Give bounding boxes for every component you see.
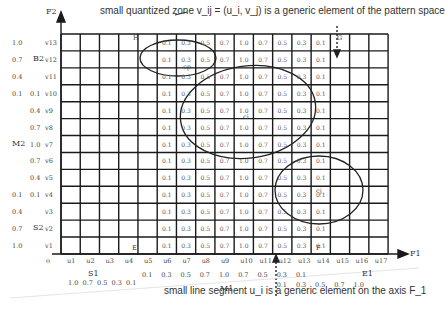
b2-membership-value: 1.0	[12, 40, 22, 47]
cell-value: 0.5	[197, 125, 214, 131]
cell-value: 0.5	[274, 125, 291, 131]
cell-value: 0.5	[197, 40, 214, 46]
cell-value: 0.7	[216, 142, 233, 148]
cell-value: 0.5	[274, 226, 291, 232]
cluster-ci-label: ci	[243, 114, 249, 121]
s2-membership-value: 0.4	[12, 209, 22, 216]
cell-value: 0.5	[274, 108, 291, 114]
cell-value: 0.3	[293, 40, 310, 46]
cell-value: 0.7	[254, 108, 271, 114]
cell-value: 0.1	[158, 74, 175, 80]
y-tick-v13: v13	[45, 40, 57, 47]
cell-value: 0.7	[216, 226, 233, 232]
cell-value: 0.5	[197, 175, 214, 181]
y-tick-v5: v5	[45, 175, 53, 182]
cell-value: 0.7	[254, 175, 271, 181]
cell-value: 0.5	[274, 243, 291, 249]
cell-value: 0.7	[254, 226, 271, 232]
cell-value: 0.5	[197, 226, 214, 232]
cell-value: 0.7	[254, 125, 271, 131]
cell-value: 1.0	[235, 158, 252, 164]
y-tick-v11: v11	[45, 74, 57, 81]
cell-value: 0.1	[158, 226, 175, 232]
cell-value: 0.1	[312, 74, 329, 80]
cell-value: 1.0	[235, 175, 252, 181]
m2-membership-value: 0.7	[30, 158, 40, 165]
m1-membership-value: 0.5	[180, 272, 190, 279]
cell-value: 0.5	[274, 192, 291, 198]
y-axis-arrow-icon	[57, 12, 65, 22]
cell-value: 0.1	[158, 91, 175, 97]
m1-membership-value: 0.1	[296, 272, 306, 279]
x-tick-u14: u14	[317, 258, 329, 265]
m1-membership-value: 0.3	[161, 272, 171, 279]
x-tick-u4: u4	[125, 258, 133, 265]
cell-value: 1.0	[235, 209, 252, 215]
cell-value: 0.5	[197, 57, 214, 63]
s1-membership-value: 0.3	[112, 280, 122, 287]
cell-value: 1.0	[235, 192, 252, 198]
s2-membership-value: 0.7	[12, 226, 22, 233]
cell-value: 0.1	[158, 158, 175, 164]
cell-value: 0.1	[312, 243, 329, 249]
m1-membership-value: 0.7	[200, 272, 210, 279]
s2-membership-value: 0.1	[12, 192, 22, 199]
corner-e: E	[132, 245, 137, 252]
cell-value: 0.1	[312, 91, 329, 97]
cell-value: 0.1	[312, 226, 329, 232]
cell-value: 0.5	[274, 209, 291, 215]
cell-value: 1.0	[235, 57, 252, 63]
cell-value: 1.0	[235, 142, 252, 148]
b2-membership-value: 0.4	[12, 74, 22, 81]
origin-label: o	[46, 258, 50, 265]
cell-value: 0.1	[312, 57, 329, 63]
cell-value: 0.5	[197, 158, 214, 164]
y-tick-v1: v1	[45, 243, 53, 250]
x-tick-u17: u17	[375, 258, 387, 265]
cell-value: 0.5	[274, 40, 291, 46]
cell-value: 0.3	[177, 91, 194, 97]
cell-value: 1.0	[235, 40, 252, 46]
cell-value: 0.3	[293, 158, 310, 164]
y-tick-v6: v6	[45, 158, 53, 165]
s2-label: S2	[33, 224, 44, 232]
cell-value: 0.7	[216, 91, 233, 97]
cell-value: 0.3	[177, 226, 194, 232]
cell-value: 0.5	[197, 108, 214, 114]
cell-value: 1.0	[235, 74, 252, 80]
cell-value: 0.3	[293, 209, 310, 215]
cell-value: 0.7	[254, 243, 271, 249]
cell-value: 0.7	[216, 125, 233, 131]
cell-value: 0.1	[312, 142, 329, 148]
cell-value: 0.7	[216, 74, 233, 80]
cell-value: 0.7	[216, 209, 233, 215]
cell-value: 0.5	[197, 91, 214, 97]
cell-value: 0.1	[312, 125, 329, 131]
cell-value: 0.7	[216, 108, 233, 114]
s1-label: S1	[88, 270, 99, 278]
y-axis-label: F2	[46, 8, 57, 16]
cell-value: 0.1	[158, 243, 175, 249]
m2-membership-value: 0.4	[30, 108, 40, 115]
m2-membership-value: 0.1	[30, 91, 40, 98]
cell-value: 0.7	[216, 57, 233, 63]
x-tick-u5: u5	[144, 258, 152, 265]
b2-label: B2	[33, 55, 44, 63]
cell-value: 0.7	[254, 91, 271, 97]
x-axis-arrow-icon	[398, 250, 408, 258]
e1-membership-value: 0.3	[296, 282, 306, 289]
y-tick-v8: v8	[45, 125, 53, 132]
cell-value: 0.5	[274, 91, 291, 97]
m1-membership-value: 1.0	[219, 272, 229, 279]
cell-value: 0.1	[158, 142, 175, 148]
e1-label: E1	[362, 270, 373, 278]
y-tick-v3: v3	[45, 209, 53, 216]
cell-value: 0.7	[254, 142, 271, 148]
m1-label: M1	[220, 285, 233, 293]
cell-value: 0.1	[158, 209, 175, 215]
m1-membership-value: 0.1	[142, 272, 152, 279]
cell-value: 1.0	[235, 243, 252, 249]
cell-value: 0.7	[216, 158, 233, 164]
m1-membership-value: 0.7	[238, 272, 248, 279]
cell-value: 0.3	[293, 175, 310, 181]
